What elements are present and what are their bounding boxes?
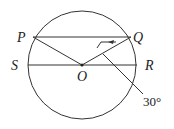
label-r: R: [144, 58, 154, 73]
arrow-icon: [108, 40, 114, 44]
radius-op: [33, 37, 82, 65]
label-s: S: [11, 58, 18, 73]
angle-label: 30°: [143, 94, 161, 109]
center-point: [80, 63, 83, 66]
label-p: P: [16, 30, 26, 45]
angle-leader-line: [103, 54, 143, 94]
circle-diagram: P Q S R O 30°: [0, 0, 174, 129]
label-o: O: [77, 69, 87, 84]
label-q: Q: [133, 30, 143, 45]
radius-oq: [82, 37, 131, 65]
